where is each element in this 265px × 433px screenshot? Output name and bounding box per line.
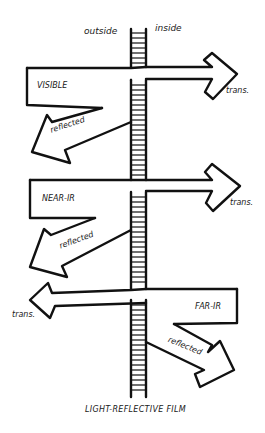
far-ir-transmitted-arrow [30, 283, 237, 318]
far-ir-band-label: FAR-IR [195, 302, 221, 311]
near-ir-trans-label: trans. [230, 198, 253, 207]
inside-label: inside [155, 23, 182, 33]
outside-label: outside [84, 26, 117, 36]
far-ir-trans-label: trans. [12, 310, 35, 319]
film-strip [131, 29, 146, 397]
film-diagram [0, 0, 265, 433]
diagram-caption: LIGHT-REFLECTIVE FILM [85, 405, 186, 414]
near-ir-transmitted-arrow [30, 164, 240, 211]
visible-band-label: VISIBLE [37, 81, 67, 90]
film-hatching [131, 33, 146, 390]
visible-trans-label: trans. [226, 86, 249, 95]
far-ir-reflected-arrow [146, 324, 234, 387]
near-ir-reflected-arrow [30, 218, 131, 277]
near-ir-band-label: NEAR-IR [42, 194, 75, 203]
